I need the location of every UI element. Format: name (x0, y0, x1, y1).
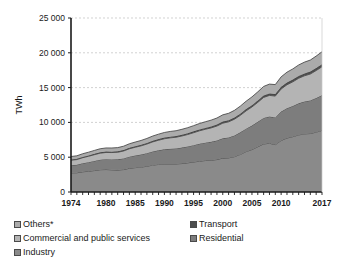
legend-label-residential: Residential (199, 233, 244, 243)
legend-column-left: Commercial and public services (14, 233, 190, 243)
y-axis-tick-labels: 05 00010 00015 00020 00025 000 (39, 13, 65, 197)
y-tick-label: 10 000 (39, 117, 65, 127)
legend-column-right: Residential (190, 233, 244, 243)
x-tick-label: 2017 (313, 198, 332, 208)
y-tick-label: 0 (60, 187, 65, 197)
legend-swatch-transport-icon (190, 221, 197, 228)
legend-item-transport[interactable]: Transport (190, 219, 237, 229)
x-tick-label: 1990 (155, 198, 174, 208)
legend-label-commercial: Commercial and public services (23, 233, 150, 243)
legend-row: Others* Transport (14, 219, 334, 233)
x-tick-label: 2000 (213, 198, 232, 208)
y-axis-title-text: TWh (14, 96, 24, 115)
legend-item-commercial[interactable]: Commercial and public services (14, 233, 150, 243)
y-axis-title: TWh (14, 96, 24, 115)
legend-swatch-residential-icon (190, 235, 197, 242)
y-tick-label: 15 000 (39, 83, 65, 93)
legend-swatch-industry-icon (14, 249, 21, 256)
x-tick-label: 1974 (62, 198, 81, 208)
legend-row: Industry (14, 247, 334, 261)
chart-legend: Others* Transport Commercial and public … (14, 219, 334, 261)
legend-label-others: Others* (23, 219, 54, 229)
legend-column-left: Others* (14, 219, 190, 229)
legend-column-right: Transport (190, 219, 237, 229)
x-tick-label: 1995 (184, 198, 203, 208)
x-tick-label: 1980 (97, 198, 116, 208)
legend-item-residential[interactable]: Residential (190, 233, 244, 243)
y-tick-label: 20 000 (39, 48, 65, 58)
legend-column-left: Industry (14, 247, 190, 257)
legend-swatch-commercial-icon (14, 235, 21, 242)
x-axis-tick-labels: 197419801985199019952000200520102017 (62, 198, 332, 208)
legend-item-others[interactable]: Others* (14, 219, 54, 229)
y-tick-label: 5 000 (44, 152, 66, 162)
x-tick-label: 2010 (272, 198, 291, 208)
chart-figure: 05 00010 00015 00020 00025 000 197419801… (0, 0, 346, 274)
legend-swatch-others-icon (14, 221, 21, 228)
legend-label-transport: Transport (199, 219, 237, 229)
legend-label-industry: Industry (23, 247, 55, 257)
x-tick-label: 1985 (126, 198, 145, 208)
legend-item-industry[interactable]: Industry (14, 247, 55, 257)
y-tick-label: 25 000 (39, 13, 65, 23)
x-tick-label: 2005 (242, 198, 261, 208)
legend-row: Commercial and public services Residenti… (14, 233, 334, 247)
